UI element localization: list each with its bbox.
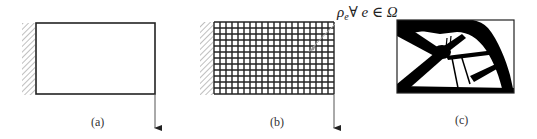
panel-label-b: (b) [270,115,284,130]
fixed-support-hatch-a [22,23,35,95]
topology-optimization-figure: ρe∀ e ∈ Ω (a) (b) (c) [0,0,537,139]
panel-c [397,19,514,93]
fixed-support-hatch-b [200,22,213,95]
density-variable-label: ρe∀ e ∈ Ω [337,3,398,22]
panel-b [200,22,335,128]
panel-label-a: (a) [91,115,104,130]
design-domain-rect [36,23,155,94]
panel-a [22,23,155,128]
density-quantifier: ∀ e ∈ Ω [349,4,398,20]
fe-mesh-grid [214,22,334,94]
optimized-topology [397,19,514,93]
panel-label-c: (c) [455,113,468,128]
